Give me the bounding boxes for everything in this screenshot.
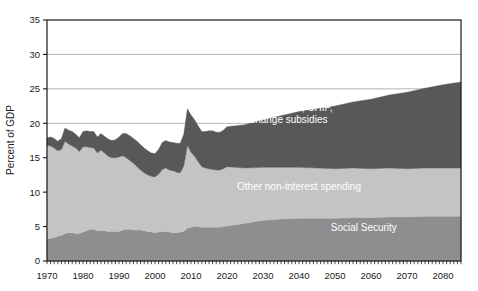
- area-chart-figure: 05101520253035 1970198019902000201020202…: [0, 0, 478, 291]
- x-tick-label-2030: 2030: [252, 270, 273, 281]
- x-tick-label-2080: 2080: [432, 270, 453, 281]
- x-tick-label-2070: 2070: [396, 270, 417, 281]
- y-tick-label-5: 5: [35, 221, 40, 232]
- annotation-label-0-line2: and exchange subsidies: [220, 114, 327, 125]
- x-tick-label-2010: 2010: [180, 270, 201, 281]
- annotation-label-1: Other non-interest spending: [237, 181, 361, 192]
- annotation-label-2: Social Security: [331, 222, 397, 233]
- y-tick-label-20: 20: [29, 118, 40, 129]
- chart-svg: 05101520253035 1970198019902000201020202…: [0, 0, 478, 291]
- x-tick-label-2060: 2060: [360, 270, 381, 281]
- x-tick-label-2040: 2040: [288, 270, 309, 281]
- x-tick-label-1970: 1970: [36, 270, 57, 281]
- y-tick-label-30: 30: [29, 49, 40, 60]
- y-tick-label-15: 15: [29, 152, 40, 163]
- x-tick-label-1980: 1980: [72, 270, 93, 281]
- y-tick-label-10: 10: [29, 187, 40, 198]
- chart-screenshot: 05101520253035 1970198019902000201020202…: [0, 0, 478, 291]
- x-tick-label-2000: 2000: [144, 270, 165, 281]
- x-tick-label-2020: 2020: [216, 270, 237, 281]
- x-tick-label-2050: 2050: [324, 270, 345, 281]
- y-tick-label-35: 35: [29, 14, 40, 25]
- y-tick-label-0: 0: [35, 255, 40, 266]
- y-axis-title: Percent of GDP: [5, 105, 16, 175]
- annotation-label-0: Medicare, Medicaid, CHIP,: [215, 102, 333, 113]
- y-tick-label-25: 25: [29, 83, 40, 94]
- x-tick-label-1990: 1990: [108, 270, 129, 281]
